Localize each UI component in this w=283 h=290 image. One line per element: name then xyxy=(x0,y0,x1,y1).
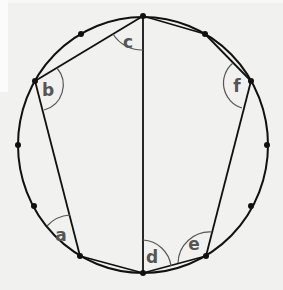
edge-a-bottom xyxy=(80,256,143,273)
angle-label-a: a xyxy=(55,225,66,245)
point-upper-right xyxy=(202,31,208,37)
edge-e-f xyxy=(206,81,251,256)
angle-label-e: e xyxy=(188,234,200,254)
vertex-a xyxy=(77,253,83,259)
point-lower-left xyxy=(31,203,37,209)
angle-label-b: b xyxy=(42,80,54,100)
point-right xyxy=(264,142,270,148)
vertex-top xyxy=(140,13,146,19)
inscribed-polygon-diagram: a b c d e f xyxy=(0,0,283,290)
vertex-e xyxy=(203,253,209,259)
vertex-b xyxy=(32,78,38,84)
angle-label-f: f xyxy=(233,76,241,96)
vertex-f xyxy=(248,78,254,84)
edge-f-topright xyxy=(205,34,251,81)
angle-label-d: d xyxy=(146,247,158,267)
point-lower-right xyxy=(248,203,254,209)
angle-label-c: c xyxy=(123,32,133,52)
polygon-edges xyxy=(35,16,251,273)
vertex-bottom xyxy=(140,270,146,276)
edge-topright-top xyxy=(143,16,205,34)
point-left xyxy=(15,142,21,148)
point-upper-left xyxy=(78,31,84,37)
